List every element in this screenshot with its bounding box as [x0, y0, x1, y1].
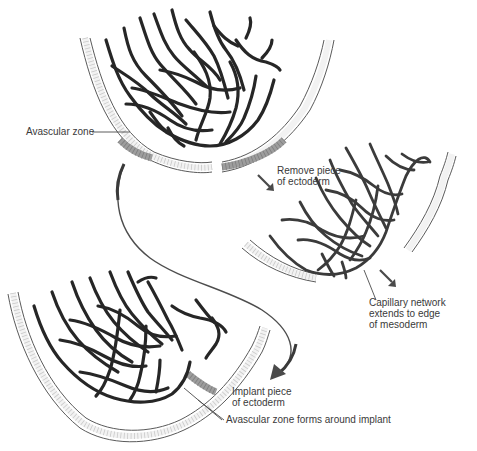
implant-piece-label: Implant piece of ectoderm [232, 386, 291, 408]
capillary-network-leader [364, 270, 376, 300]
implanted-ectoderm-piece [188, 374, 216, 392]
stage-1-capillary-network [106, 10, 280, 146]
stage-2-embryo [242, 144, 456, 300]
extends-arrow [380, 270, 396, 287]
diagram-canvas [0, 0, 477, 451]
avascular-zone-label: Avascular zone [26, 126, 94, 137]
stage-1-embryo [80, 10, 334, 173]
capillary-network-label: Capillary network extends to edge of mes… [369, 297, 446, 330]
remove-piece-label: Remove piece of ectoderm [277, 165, 341, 187]
transfer-arrowhead-icon [270, 364, 286, 380]
avascular-forms-label: Avascular zone forms around implant [226, 414, 391, 425]
remove-arrow [258, 175, 274, 191]
